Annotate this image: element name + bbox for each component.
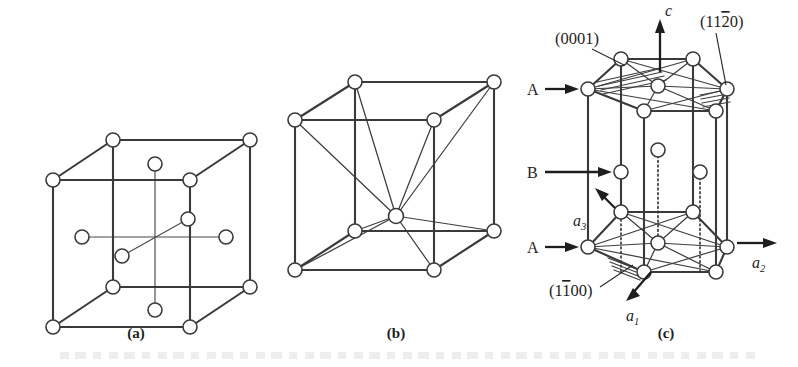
panel-c-hcp: c a2 a1 a3 — [527, 2, 777, 342]
a3-axis-arrow — [595, 188, 615, 208]
c-axis-label: c — [665, 2, 672, 19]
bcc-back-edges — [295, 120, 434, 270]
layer-arrow-middle-b — [545, 167, 612, 177]
plane-label-prism-m: (1100) — [549, 281, 592, 300]
fcc-face-center-connectors — [82, 164, 226, 310]
a1-axis-label: a1 — [626, 307, 639, 327]
bcc-body-center-atom — [389, 209, 404, 224]
a2-axis-arrow — [737, 238, 777, 248]
hcp-interior-droplines — [644, 118, 716, 212]
crystal-structures-figure: (a) — [0, 0, 798, 367]
layer-label-top-a: A — [527, 81, 539, 98]
panel-b-bcc: (b) — [288, 75, 501, 342]
bcc-front-edges — [355, 82, 494, 231]
plane-leader-prism-a — [716, 33, 726, 85]
panel-c-caption: (c) — [658, 325, 675, 342]
page-footer-artifact — [60, 352, 760, 359]
layer-label-middle-b: B — [527, 164, 538, 181]
layer-arrow-bottom-a — [545, 242, 579, 252]
panel-a-caption: (a) — [127, 325, 145, 342]
panel-a-fcc: (a) — [46, 133, 257, 342]
plane-label-prism-a: (1120) — [700, 12, 743, 31]
layer-arrow-top-a — [545, 84, 579, 94]
layer-label-bottom-a: A — [527, 239, 539, 256]
c-axis-arrow — [655, 19, 665, 72]
fcc-front-edges — [113, 140, 250, 287]
plane-label-basal: (0001) — [555, 29, 599, 48]
a3-axis-label: a3 — [573, 212, 586, 232]
bcc-depth-edges — [295, 82, 494, 270]
a2-axis-label: a2 — [752, 254, 766, 274]
figure-canvas: (a) — [0, 0, 798, 367]
bcc-body-diagonals — [295, 82, 494, 270]
panel-b-caption: (b) — [387, 325, 405, 342]
